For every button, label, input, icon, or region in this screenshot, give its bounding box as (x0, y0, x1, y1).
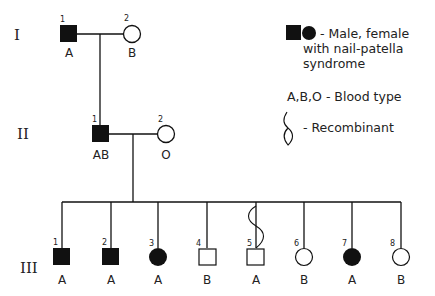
individual-iii6-female-icon (296, 249, 313, 266)
individual-number: 8 (390, 239, 395, 248)
individual-number: 1 (53, 238, 58, 247)
blood-type-label: O (151, 148, 181, 162)
blood-type-label: B (192, 273, 222, 287)
legend-blood-type: A,B,O - Blood type (287, 89, 402, 104)
blood-type-label: B (289, 273, 319, 287)
individual-ii1-affected-male-icon (92, 125, 109, 142)
individual-i1-affected-male-icon (60, 25, 77, 42)
individual-iii2-affected-male-icon (102, 248, 119, 265)
individual-ii2-female-icon (158, 126, 175, 143)
blood-type-label: A (241, 273, 271, 287)
individual-number: 7 (342, 239, 347, 248)
legend-affected-line2: with nail-patella (303, 41, 403, 56)
individual-iii3-affected-female-icon (149, 248, 167, 266)
legend-affected-female-icon (302, 26, 316, 40)
legend-recombinant-icon (284, 112, 292, 145)
individual-iii5-male-icon (247, 249, 264, 265)
individual-iii4-male-icon (199, 249, 216, 265)
blood-type-label: A (96, 273, 126, 287)
individual-iii1-affected-male-icon (53, 248, 70, 265)
individual-number: 4 (196, 239, 201, 248)
blood-type-label: A (54, 46, 84, 60)
blood-type-label: AB (86, 148, 116, 162)
individual-number: 5 (247, 239, 252, 248)
legend-affected-male-icon (286, 25, 301, 40)
blood-type-label: A (47, 273, 77, 287)
legend-affected-line1: - Male, female (320, 26, 409, 41)
individual-iii8-female-icon (393, 249, 410, 266)
individual-number: 2 (158, 115, 163, 124)
legend-affected-line3: syndrome (303, 56, 365, 71)
individual-i2-female-icon (124, 26, 141, 43)
individual-number: 1 (60, 15, 65, 24)
blood-type-label: A (337, 273, 367, 287)
individual-number: 2 (124, 14, 129, 23)
legend-recombinant: - Recombinant (303, 120, 394, 135)
individual-number: 3 (149, 239, 154, 248)
blood-type-label: B (117, 46, 147, 60)
individual-number: 2 (102, 238, 107, 247)
blood-type-label: A (143, 273, 173, 287)
individual-number: 6 (294, 239, 299, 248)
individual-number: 1 (92, 115, 97, 124)
blood-type-label: B (386, 273, 416, 287)
individual-iii7-affected-female-icon (343, 248, 361, 266)
